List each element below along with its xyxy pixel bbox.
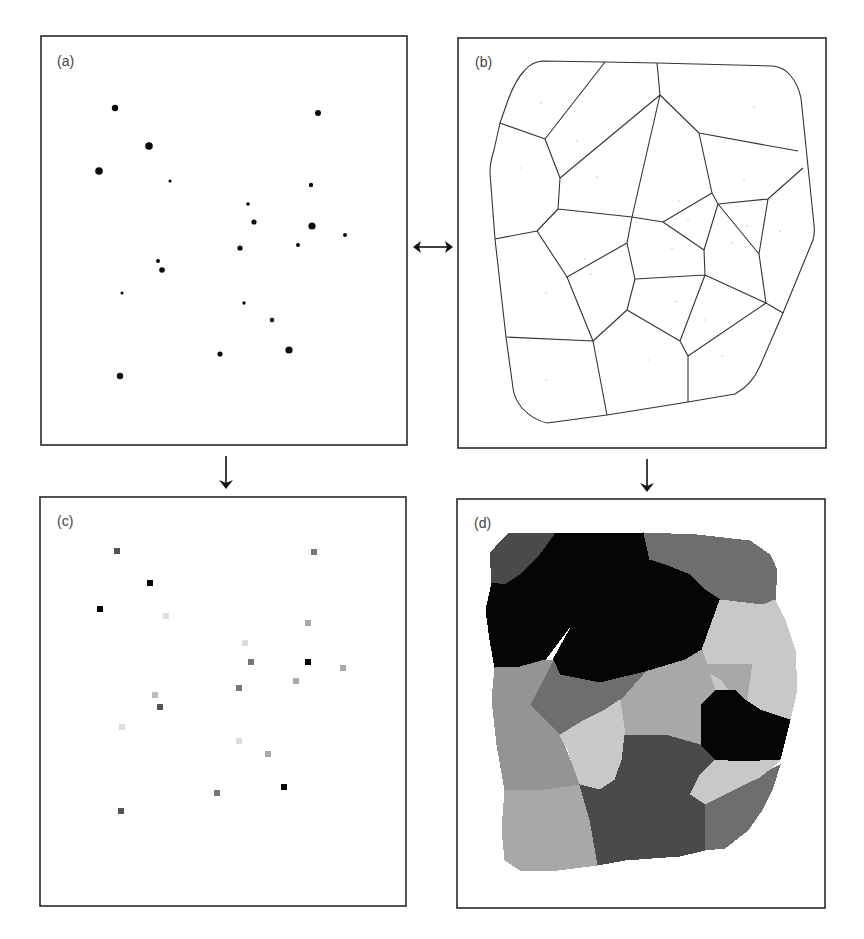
panel-d-label: (d) bbox=[474, 515, 491, 531]
point-marker bbox=[145, 142, 153, 150]
point-marker bbox=[315, 110, 321, 116]
double-arrow-icon bbox=[413, 241, 453, 253]
point-marker bbox=[285, 346, 292, 353]
point-marker bbox=[237, 245, 242, 250]
voronoi-diagram bbox=[490, 61, 814, 423]
point-marker bbox=[251, 219, 256, 224]
raster-cell bbox=[236, 685, 242, 691]
raster-cell bbox=[97, 606, 103, 612]
raster-cell bbox=[305, 659, 311, 665]
panel-a: (a) bbox=[41, 36, 407, 445]
raster-cell bbox=[293, 678, 299, 684]
figure-canvas: (a) (b) bbox=[0, 0, 864, 939]
raster-cell bbox=[114, 548, 120, 554]
raster-cell bbox=[157, 704, 163, 710]
raster-cell bbox=[311, 549, 317, 555]
point-marker bbox=[308, 222, 315, 229]
point-marker bbox=[343, 233, 347, 237]
point-marker bbox=[95, 167, 103, 175]
panel-c-label: (c) bbox=[57, 513, 73, 529]
point-marker bbox=[242, 301, 245, 304]
panel-c: (c) bbox=[40, 497, 406, 906]
point-markers bbox=[95, 105, 347, 379]
down-arrow-icon bbox=[640, 459, 654, 492]
voronoi-boundary bbox=[490, 61, 814, 423]
raster-cell bbox=[118, 808, 124, 814]
raster-cell bbox=[340, 665, 346, 671]
raster-cell bbox=[119, 724, 125, 730]
down-arrow-icon bbox=[219, 456, 233, 489]
panel-a-frame bbox=[41, 36, 407, 445]
point-marker bbox=[156, 259, 160, 263]
point-marker bbox=[217, 351, 222, 356]
raster-cell bbox=[236, 738, 242, 744]
point-marker bbox=[168, 179, 171, 182]
point-marker bbox=[270, 318, 274, 322]
point-marker bbox=[112, 105, 118, 111]
raster-cell bbox=[265, 751, 271, 757]
point-marker bbox=[296, 243, 300, 247]
panel-b-label: (b) bbox=[475, 54, 492, 70]
rasterized-voronoi-map bbox=[486, 533, 797, 871]
panel-c-frame bbox=[40, 497, 406, 906]
raster-cell bbox=[147, 580, 153, 586]
voronoi-edges bbox=[495, 62, 803, 415]
point-marker bbox=[121, 292, 124, 295]
raster-cell bbox=[248, 659, 254, 665]
raster-cells bbox=[97, 548, 346, 814]
point-marker bbox=[309, 183, 313, 187]
panel-a-label: (a) bbox=[57, 53, 74, 69]
raster-cell bbox=[242, 640, 248, 646]
raster-cell bbox=[152, 692, 158, 698]
point-marker bbox=[117, 373, 123, 379]
raster-cell bbox=[163, 613, 169, 619]
raster-cell bbox=[305, 620, 311, 626]
raster-cell bbox=[281, 784, 287, 790]
point-marker bbox=[246, 202, 250, 206]
raster-cell bbox=[214, 790, 220, 796]
point-marker bbox=[159, 267, 165, 273]
panel-d: (d) bbox=[457, 499, 825, 908]
panel-b: (b) bbox=[458, 38, 826, 448]
